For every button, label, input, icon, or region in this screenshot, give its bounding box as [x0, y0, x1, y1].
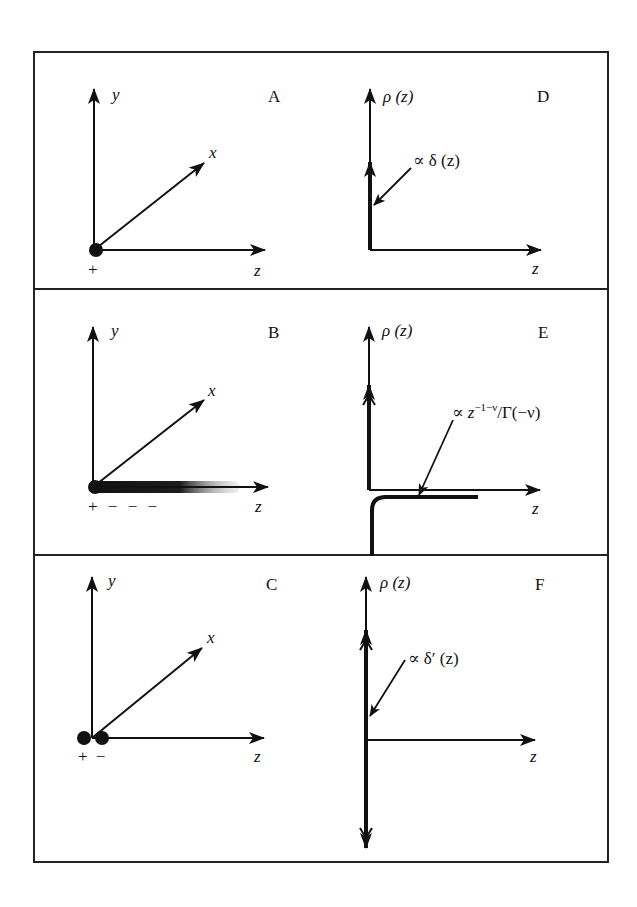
annotation-pointer [370, 660, 405, 716]
z-axis-label: z [529, 747, 537, 766]
x-axis-arrow [92, 648, 202, 738]
delta-prime-annotation: ∝ δ′ (z) [408, 649, 459, 668]
point-charge [89, 243, 103, 257]
positive-charge [77, 731, 91, 745]
point-charge [88, 480, 102, 494]
rho-axis-label: ρ (z) [382, 87, 414, 106]
panel-f: ρ (z) z ∝ δ′ (z) F [360, 573, 544, 848]
y-axis-label: y [109, 321, 119, 340]
z-axis-label: z [253, 261, 261, 280]
panel-e: ρ (z) z ∝ z−1−ν/Γ(−ν) E [363, 321, 548, 556]
annotation-pointer [374, 168, 411, 205]
x-axis-arrow [94, 163, 204, 250]
panel-label: A [268, 87, 281, 106]
delta-annotation: ∝ δ (z) [413, 151, 460, 170]
z-axis-label: z [531, 499, 539, 518]
x-axis-arrow [93, 400, 204, 487]
x-axis-label: x [208, 143, 217, 162]
panel-c: y x z + − C [77, 571, 277, 766]
panel-b: y x z + − − − B [88, 321, 279, 516]
panel-label: F [535, 575, 544, 594]
rho-axis-label: ρ (z) [381, 321, 413, 340]
z-axis-label: z [254, 497, 262, 516]
panel-a: y x z + A [88, 85, 281, 280]
power-law-curve [372, 497, 478, 556]
panel-label: B [268, 323, 279, 342]
panel-label: E [538, 323, 548, 342]
x-axis-label: x [206, 628, 215, 647]
rho-axis-label: ρ (z) [379, 573, 411, 592]
figure-svg: y x z + A ρ (z) z ∝ δ (z) D y x z + − − … [0, 0, 637, 907]
panel-label: C [266, 575, 277, 594]
z-axis-label: z [253, 747, 261, 766]
charge-signs: + − − − [88, 497, 160, 516]
charge-sign: + [88, 260, 98, 279]
power-law-annotation: ∝ z−1−ν/Γ(−ν) [452, 401, 540, 422]
negative-charge [95, 731, 109, 745]
figure: y x z + A ρ (z) z ∝ δ (z) D y x z + − − … [0, 0, 637, 907]
panel-d: ρ (z) z ∝ δ (z) D [370, 87, 549, 278]
y-axis-label: y [110, 85, 120, 104]
panel-label: D [537, 87, 549, 106]
annotation-pointer [419, 420, 453, 495]
z-axis-label: z [531, 259, 539, 278]
y-axis-label: y [106, 571, 116, 590]
charge-signs: + − [78, 747, 107, 766]
x-axis-label: x [207, 381, 216, 400]
